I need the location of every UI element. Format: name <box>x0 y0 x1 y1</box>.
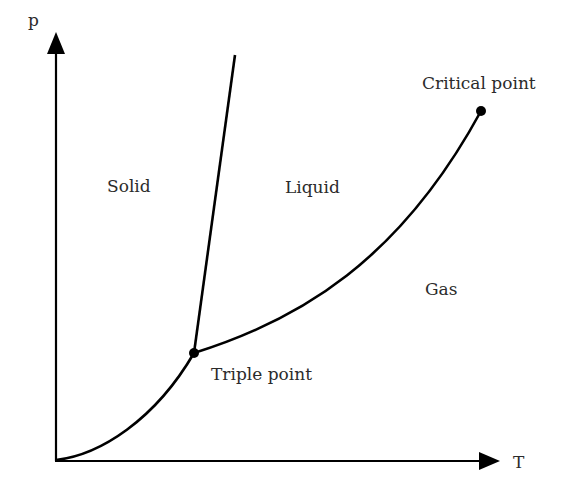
region-label-liquid: Liquid <box>285 177 340 197</box>
triple-point-label: Triple point <box>211 364 312 384</box>
sublimation-curve <box>56 353 194 460</box>
melting-curve <box>194 55 235 353</box>
y-axis-arrowhead-icon <box>47 32 65 54</box>
vaporization-curve <box>194 111 481 353</box>
region-label-gas: Gas <box>425 279 457 299</box>
phase-diagram: p T Solid Liquid Gas Triple point Critic… <box>0 0 565 492</box>
triple-point-marker <box>189 348 199 358</box>
x-axis-label: T <box>513 452 525 472</box>
critical-point-label: Critical point <box>422 73 536 93</box>
region-label-solid: Solid <box>107 176 151 196</box>
y-axis-label: p <box>28 10 39 30</box>
critical-point-marker <box>476 106 486 116</box>
x-axis-arrowhead-icon <box>479 452 500 470</box>
